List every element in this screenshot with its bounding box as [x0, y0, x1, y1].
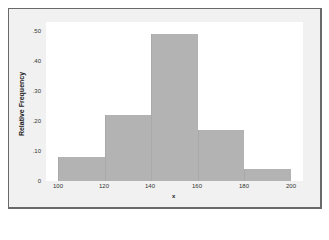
histogram-bar [198, 130, 245, 181]
y-tick-40: .40 [27, 58, 41, 64]
x-tick-160: 160 [187, 183, 207, 189]
histogram-bar [244, 169, 291, 181]
y-tick-0: 0 [27, 178, 41, 184]
histogram-bar [105, 115, 152, 181]
x-axis-label: x [172, 193, 175, 199]
x-tick-100: 100 [48, 183, 68, 189]
histogram-bar [151, 34, 198, 181]
histogram-bar [58, 157, 105, 181]
y-tick-50: .50 [27, 28, 41, 34]
x-tick-120: 120 [94, 183, 114, 189]
x-tick-180: 180 [234, 183, 254, 189]
y-tick-20: .20 [27, 118, 41, 124]
y-axis-label: Relative Frequency [18, 72, 25, 136]
x-tick-200: 200 [281, 183, 301, 189]
y-tick-30: .30 [27, 88, 41, 94]
x-tick-140: 140 [140, 183, 160, 189]
y-tick-10: .10 [27, 148, 41, 154]
